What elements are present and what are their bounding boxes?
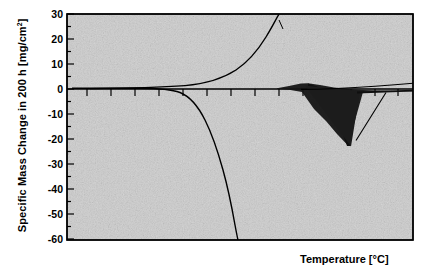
plot-background — [67, 14, 413, 240]
plot-canvas — [0, 0, 432, 279]
chart-figure: Specific Mass Change in 200 h [mg/cm2] 3… — [0, 0, 432, 279]
